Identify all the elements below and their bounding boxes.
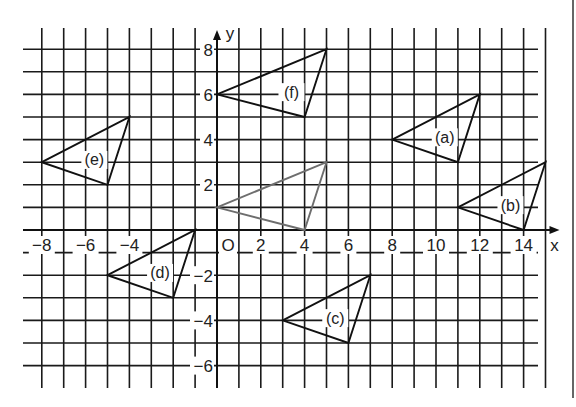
x-tick-label: 4 [300, 236, 309, 255]
y-tick-label: 4 [204, 131, 213, 150]
grid-lines [23, 28, 546, 388]
x-tick-label: 12 [470, 236, 489, 255]
triangle-f [217, 49, 327, 117]
y-axis-arrow-icon [213, 30, 221, 40]
y-tick-label: −6 [194, 357, 213, 376]
triangle-label: (c) [326, 310, 345, 327]
y-tick-label: −4 [194, 312, 213, 331]
triangle-label: (b) [501, 197, 521, 214]
y-tick-label: 2 [204, 176, 213, 195]
x-tick-label: 10 [427, 236, 446, 255]
coordinate-grid-figure: −8−6−42468101214Ox8642−2−4−6y(a)(b)(c)(d… [0, 0, 576, 407]
y-tick-label: −2 [194, 267, 213, 286]
triangle-label: (a) [435, 129, 455, 146]
y-tick-label: 6 [204, 86, 213, 105]
triangle-label: (f) [284, 84, 299, 101]
x-tick-label: −8 [32, 236, 51, 255]
y-axis-label: y [226, 24, 235, 43]
x-tick-label: −6 [76, 236, 95, 255]
triangle-label: (d) [150, 264, 170, 281]
x-tick-label: 6 [344, 236, 353, 255]
origin-label: O [221, 236, 234, 255]
labels: −8−6−42468101214Ox8642−2−4−6y(a)(b)(c)(d… [29, 24, 562, 377]
triangle-label: (e) [85, 151, 105, 168]
x-axis-label: x [550, 236, 559, 255]
y-tick-label: 8 [204, 41, 213, 60]
x-axis-arrow-icon [550, 226, 560, 234]
x-tick-label: 8 [387, 236, 396, 255]
original-triangle [217, 162, 327, 230]
x-tick-label: 2 [256, 236, 265, 255]
x-tick-label: 14 [514, 236, 533, 255]
x-tick-label: −4 [120, 236, 139, 255]
